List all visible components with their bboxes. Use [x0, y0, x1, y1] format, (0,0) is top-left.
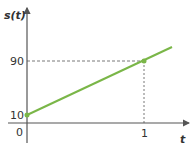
series-line: [27, 47, 172, 115]
x-axis-label: t: [180, 133, 186, 146]
point-start: [25, 113, 30, 118]
point-end: [142, 59, 147, 64]
y-tick-90: 90: [10, 55, 24, 68]
chart: s(t) t 90 10 0 1: [0, 0, 193, 149]
origin-label: 0: [16, 126, 23, 139]
x-tick-1: 1: [141, 127, 148, 140]
y-axis-label: s(t): [4, 9, 26, 22]
y-tick-10: 10: [10, 109, 24, 122]
